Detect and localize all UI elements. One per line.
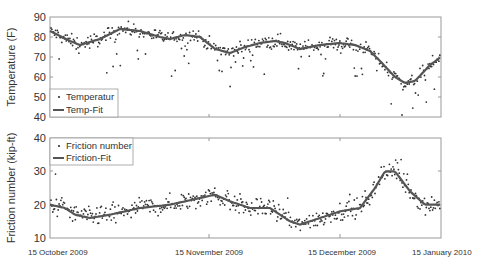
- temp-ytick-40: 40: [34, 111, 46, 123]
- legend-friction-fit: Friction-Fit: [66, 152, 111, 163]
- xtick-15-jan-2010: 15 January 2010: [412, 248, 472, 257]
- temp-ytick-70: 70: [34, 51, 46, 63]
- temp-ytick-90: 90: [34, 11, 46, 23]
- friction-ytick-40: 40: [34, 132, 46, 144]
- friction-panel: 40 30 20 10 Friction number (kip-ft) Fri…: [5, 132, 441, 244]
- scatter-marker-icon: [58, 145, 60, 147]
- legend-temp-fit: Temp-Fit: [66, 104, 103, 115]
- temperature-panel: 90 80 70 60 50 40 Temperature (F) Temper…: [5, 11, 441, 123]
- figure: 90 80 70 60 50 40 Temperature (F) Temper…: [0, 0, 485, 270]
- temperature-legend: Temperatur Temp-Fit: [50, 89, 118, 117]
- temperature-y-axis-label: Temperature (F): [5, 28, 17, 107]
- legend-friction-number: Friction number: [66, 140, 132, 151]
- friction-ytick-30: 30: [34, 165, 46, 177]
- friction-legend: Friction number Friction-Fit: [50, 138, 133, 165]
- scatter-marker-icon: [58, 96, 60, 98]
- xtick-15-nov-2009: 15 November 2009: [175, 248, 244, 257]
- xtick-15-oct-2009: 15 October 2009: [28, 248, 88, 257]
- temp-ytick-50: 50: [34, 91, 46, 103]
- temp-ytick-80: 80: [34, 31, 46, 43]
- friction-ytick-20: 20: [34, 199, 46, 211]
- temp-ytick-60: 60: [34, 71, 46, 83]
- friction-y-axis-label: Friction number (kip-ft): [5, 133, 17, 244]
- xtick-15-dec-2009: 15 December 2009: [308, 248, 377, 257]
- friction-ytick-10: 10: [34, 232, 46, 244]
- legend-temperatur: Temperatur: [66, 91, 114, 102]
- x-axis-labels: 15 October 2009 15 November 2009 15 Dece…: [28, 248, 472, 257]
